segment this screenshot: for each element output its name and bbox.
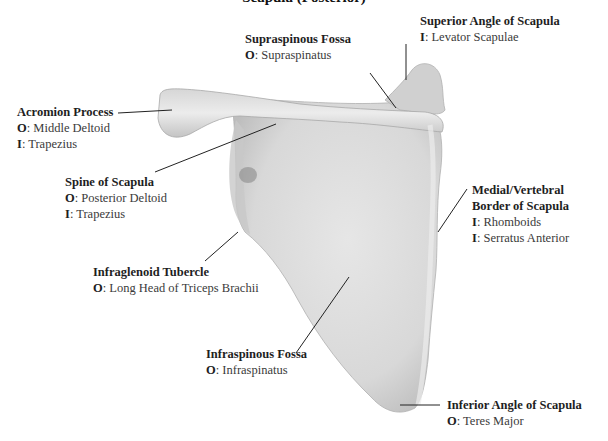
label-acromion-process: Acromion Process O: Middle Deltoid I: Tr… [17, 104, 113, 152]
label-infraglenoid-tubercle: Infraglenoid Tubercle O: Long Head of Tr… [93, 264, 259, 296]
label-supraspinous-fossa: Supraspinous Fossa O: Supraspinatus [245, 31, 351, 63]
label-superior-angle: Superior Angle of Scapula I: Levator Sca… [420, 13, 560, 45]
label-medial-border: Medial/Vertebral Border of Scapula I: Rh… [472, 182, 569, 246]
label-inferior-angle: Inferior Angle of Scapula O: Teres Major [447, 397, 582, 429]
label-spine-of-scapula: Spine of Scapula O: Posterior Deltoid I:… [65, 174, 167, 222]
label-infraspinous-fossa: Infraspinous Fossa O: Infraspinatus [206, 346, 307, 378]
